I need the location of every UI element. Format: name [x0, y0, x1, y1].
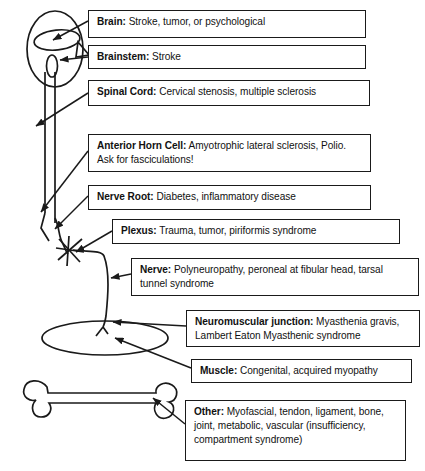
label-desc-nerve-root: Diabetes, inflammatory disease — [156, 191, 295, 202]
leader-spinal-cord — [36, 93, 88, 126]
cauda-equina — [41, 213, 55, 241]
brain-ellipse — [33, 28, 81, 53]
label-term-anterior-horn-cell: Anterior Horn Cell: — [97, 140, 186, 151]
label-desc-plexus: Trauma, tumor, piriformis syndrome — [159, 225, 316, 236]
leader-plexus — [76, 231, 112, 252]
label-box-other: Other: Myofascial, tendon, ligament, bon… — [185, 400, 406, 461]
nerve-terminal-branch — [96, 327, 108, 336]
label-term-brain: Brain: — [97, 16, 126, 27]
label-term-neuromuscular-junction: Neuromuscular junction: — [195, 316, 313, 327]
leader-nerve — [111, 274, 131, 278]
label-box-neuromuscular-junction: Neuromuscular junction: Myasthenia gravi… — [186, 310, 420, 347]
label-term-nerve: Nerve: — [140, 264, 171, 275]
leader-muscle — [115, 338, 191, 368]
label-desc-brain: Stroke, tumor, or psychological — [129, 16, 265, 27]
label-box-nerve: Nerve: Polyneuropathy, peroneal at fibul… — [131, 258, 419, 296]
label-term-brainstem: Brainstem: — [97, 51, 149, 62]
neuromuscular-localization-diagram: Brain: Stroke, tumor, or psychological B… — [0, 0, 425, 471]
label-box-brainstem: Brainstem: Stroke — [88, 45, 366, 69]
label-box-brain: Brain: Stroke, tumor, or psychological — [88, 10, 366, 38]
label-desc-nerve: Polyneuropathy, peroneal at fibular head… — [140, 264, 383, 289]
label-desc-spinal-cord: Cervical stenosis, multiple sclerosis — [159, 86, 316, 97]
label-box-spinal-cord: Spinal Cord: Cervical stenosis, multiple… — [88, 80, 370, 106]
leader-nerve-root — [55, 196, 88, 229]
peripheral-nerve-line — [73, 250, 108, 327]
label-box-anterior-horn-cell: Anterior Horn Cell: Amyotrophic lateral … — [88, 134, 371, 172]
spinal-cord-column — [45, 72, 55, 213]
label-box-nerve-root: Nerve Root: Diabetes, inflammatory disea… — [88, 185, 371, 210]
muscle-ellipse — [42, 321, 168, 355]
label-term-spinal-cord: Spinal Cord: — [97, 86, 156, 97]
label-desc-brainstem: Stroke — [152, 51, 181, 62]
label-box-plexus: Plexus: Trauma, tumor, piriformis syndro… — [112, 219, 400, 244]
label-term-muscle: Muscle: — [200, 365, 237, 376]
label-desc-muscle: Congenital, acquired myopathy — [240, 365, 378, 376]
leader-brainstem — [60, 57, 88, 60]
label-box-muscle: Muscle: Congenital, acquired myopathy — [191, 359, 412, 383]
label-term-plexus: Plexus: — [121, 225, 157, 236]
label-term-nerve-root: Nerve Root: — [97, 191, 154, 202]
label-term-other: Other: — [194, 406, 224, 417]
